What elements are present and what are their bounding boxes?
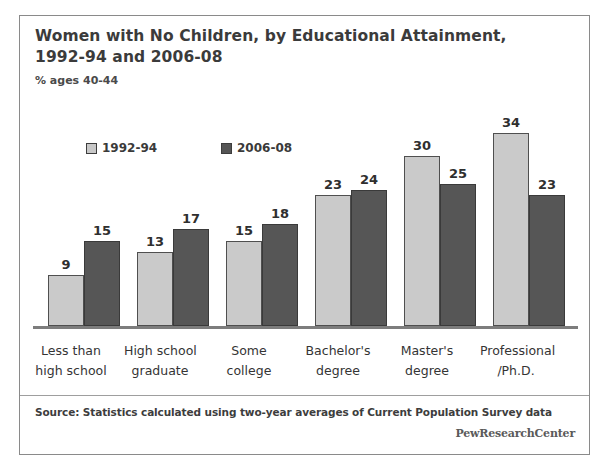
bar-2006-08-Less than high school[interactable] bbox=[84, 241, 120, 326]
category-label-1: High schoolgraduate bbox=[124, 341, 196, 381]
category-label-line: Bachelor's bbox=[302, 341, 374, 361]
bar-2006-08-High school graduate[interactable] bbox=[173, 229, 209, 326]
category-label-0: Less thanhigh school bbox=[35, 341, 107, 381]
bar-value-label: 18 bbox=[262, 206, 298, 221]
bar-value-label: 24 bbox=[351, 172, 387, 187]
category-label-3: Bachelor'sdegree bbox=[302, 341, 374, 381]
category-label-line: Less than bbox=[35, 341, 107, 361]
bar-value-label: 17 bbox=[173, 211, 209, 226]
category-label-2: Somecollege bbox=[213, 341, 285, 381]
category-label-line: High school bbox=[124, 341, 196, 361]
bar-1992-94-High school graduate[interactable] bbox=[137, 252, 173, 326]
bar-value-label: 23 bbox=[315, 177, 351, 192]
category-label-line: degree bbox=[391, 361, 463, 381]
category-label-line: degree bbox=[302, 361, 374, 381]
bar-value-label: 15 bbox=[226, 223, 262, 238]
bar-value-label: 15 bbox=[84, 223, 120, 238]
category-axis-labels: Less thanhigh schoolHigh schoolgraduateS… bbox=[33, 341, 578, 389]
bar-2006-08-Professional /Ph.D.[interactable] bbox=[529, 195, 565, 326]
brand-logo: PewResearchCenter bbox=[455, 427, 575, 440]
bar-1992-94-Some college[interactable] bbox=[226, 241, 262, 326]
bar-1992-94-Master's degree[interactable] bbox=[404, 156, 440, 326]
category-label-line: /Ph.D. bbox=[480, 361, 552, 381]
category-label-line: college bbox=[213, 361, 285, 381]
category-label-line: Master's bbox=[391, 341, 463, 361]
bar-1992-94-Bachelor's degree[interactable] bbox=[315, 195, 351, 326]
category-label-4: Master'sdegree bbox=[391, 341, 463, 381]
plot-area: 91513171518232430253423 bbox=[20, 16, 590, 455]
axis-baseline bbox=[33, 326, 578, 329]
bar-value-label: 13 bbox=[137, 234, 173, 249]
bar-value-label: 9 bbox=[48, 257, 84, 272]
category-label-5: Professional/Ph.D. bbox=[480, 341, 552, 381]
source-note: Source: Statistics calculated using two-… bbox=[35, 406, 575, 418]
category-label-line: Some bbox=[213, 341, 285, 361]
bar-1992-94-Less than high school[interactable] bbox=[48, 275, 84, 326]
category-label-line: graduate bbox=[124, 361, 196, 381]
bar-2006-08-Bachelor's degree[interactable] bbox=[351, 190, 387, 326]
bar-value-label: 34 bbox=[493, 115, 529, 130]
bar-value-label: 25 bbox=[440, 166, 476, 181]
category-label-line: high school bbox=[35, 361, 107, 381]
bar-value-label: 30 bbox=[404, 138, 440, 153]
chart-figure: Women with No Children, by Educational A… bbox=[19, 15, 590, 455]
bar-2006-08-Some college[interactable] bbox=[262, 224, 298, 326]
bar-value-label: 23 bbox=[529, 177, 565, 192]
footer-divider bbox=[20, 395, 589, 396]
category-label-line: Professional bbox=[480, 341, 552, 361]
bar-2006-08-Master's degree[interactable] bbox=[440, 184, 476, 326]
bar-1992-94-Professional /Ph.D.[interactable] bbox=[493, 133, 529, 326]
